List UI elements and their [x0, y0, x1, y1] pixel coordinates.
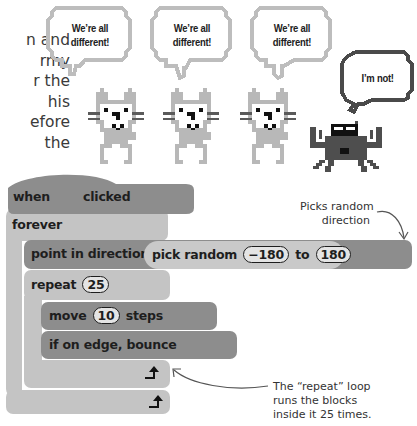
- bubble-text: We’re all different!: [161, 21, 223, 49]
- green-flag-icon: [54, 188, 78, 204]
- when-flag-clicked-block[interactable]: when clicked: [6, 172, 194, 214]
- annotation-line: The “repeat” loop: [273, 380, 372, 394]
- repeat-block-foot: [24, 360, 170, 388]
- if-on-edge-bounce-block[interactable]: if on edge, bounce: [41, 331, 237, 359]
- annotation-line: runs the blocks: [273, 394, 372, 408]
- annotation-line: direction: [308, 214, 370, 228]
- annotation-repeat-loop: The “repeat” loop runs the blocks inside…: [273, 380, 372, 422]
- to-label: to: [295, 247, 309, 262]
- pick-random-row: pick random −180 to 180: [152, 246, 353, 263]
- steps-label: steps: [126, 308, 163, 323]
- speech-bubble: I’m not!: [346, 58, 410, 98]
- annotation-line: inside it 25 times.: [273, 408, 372, 422]
- repeat-row: repeat 25: [31, 276, 111, 293]
- forever-block-arm: [6, 230, 22, 396]
- repeat-label: repeat: [31, 277, 76, 292]
- move-row: move 10 steps: [49, 307, 163, 324]
- point-label: point in direction: [31, 246, 149, 261]
- move-steps-block[interactable]: move 10 steps: [41, 302, 217, 330]
- speech-bubble: We’re all different!: [256, 12, 328, 58]
- crab-sprite: [310, 118, 388, 178]
- pick-random-reporter[interactable]: pick random −180 to 180: [144, 241, 344, 269]
- forever-block-foot: [6, 390, 170, 414]
- speech-bubble: We’re all different!: [156, 12, 228, 58]
- repeat-count-input[interactable]: 25: [82, 276, 109, 293]
- cat-sprite: [163, 88, 219, 168]
- move-label: move: [49, 308, 86, 323]
- when-label: when: [13, 189, 50, 204]
- bubble-text: I’m not!: [362, 71, 394, 85]
- repeat-block[interactable]: repeat 25: [24, 270, 170, 300]
- loop-arrow-icon: [148, 395, 166, 409]
- bubble-text: We’re all different!: [57, 21, 122, 49]
- loop-arrow-icon: [144, 366, 162, 380]
- move-steps-input[interactable]: 10: [93, 307, 120, 324]
- bubble-text: We’re all different!: [261, 21, 323, 49]
- cat-sprite: [88, 88, 144, 168]
- random-to-input[interactable]: 180: [316, 246, 352, 263]
- annotation-random-direction: Picks random direction: [308, 200, 370, 228]
- clicked-label: clicked: [83, 189, 130, 204]
- cat-sprite: [240, 88, 296, 168]
- annotation-line: Picks random: [300, 200, 362, 214]
- pick-random-label: pick random: [152, 247, 237, 262]
- random-from-input[interactable]: −180: [243, 246, 289, 263]
- speech-bubble: We’re all different!: [52, 12, 128, 58]
- bounce-label: if on edge, bounce: [49, 337, 177, 352]
